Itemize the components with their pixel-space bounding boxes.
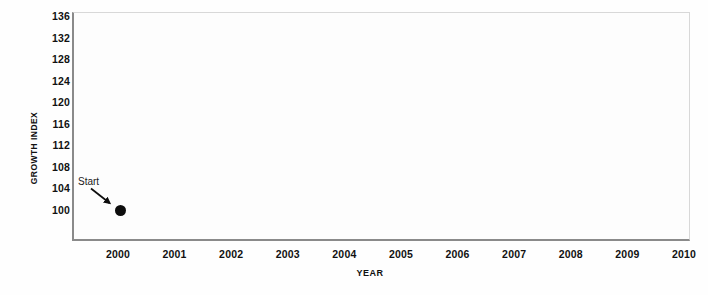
x-axis-tick-2009: 2009 [597, 248, 657, 260]
plot-area [72, 12, 690, 241]
x-axis-tick-2008: 2008 [541, 248, 601, 260]
y-axis-tick-128: 128 [4, 53, 70, 65]
data-point [115, 205, 126, 216]
x-axis-tick-2003: 2003 [258, 248, 318, 260]
x-axis-tick-2006: 2006 [428, 248, 488, 260]
y-axis-title: GROWTH INDEX [29, 88, 39, 208]
x-axis-tick-2004: 2004 [314, 248, 374, 260]
x-axis-tick-2005: 2005 [371, 248, 431, 260]
x-axis-tick-2001: 2001 [145, 248, 205, 260]
x-axis-tick-2010: 2010 [654, 248, 708, 260]
y-axis-tick-136: 136 [4, 10, 70, 22]
x-axis-tick-labels: 2000200120022003200420052006200720082009… [0, 248, 708, 264]
x-axis-tick-2007: 2007 [484, 248, 544, 260]
x-axis-tick-2000: 2000 [88, 248, 148, 260]
y-axis-tick-124: 124 [4, 75, 70, 87]
plot-data-layer [74, 13, 689, 239]
x-axis-tick-2002: 2002 [201, 248, 261, 260]
growth-index-chart: 136132128124120116112108104100 GROWTH IN… [0, 0, 708, 295]
x-axis-title: YEAR [0, 268, 708, 278]
start-annotation-label: Start [78, 176, 99, 187]
x-axis-title-text: YEAR [356, 268, 383, 278]
y-axis-tick-132: 132 [4, 32, 70, 44]
